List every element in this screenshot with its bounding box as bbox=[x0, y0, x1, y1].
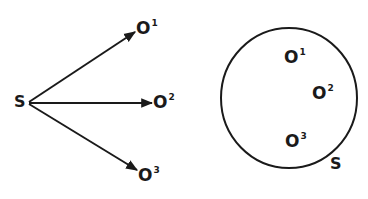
member-o1-sup: 1 bbox=[299, 47, 305, 57]
o2-base: O bbox=[153, 92, 167, 112]
left-target-o2: O2 bbox=[153, 94, 175, 111]
set-s-text: S bbox=[330, 154, 342, 173]
o1-sup: 1 bbox=[151, 18, 157, 28]
o3-base: O bbox=[138, 165, 152, 185]
o2-sup: 2 bbox=[168, 92, 174, 102]
left-target-o3: O3 bbox=[138, 167, 160, 184]
right-member-o2: O2 bbox=[312, 85, 334, 102]
left-target-o1: O1 bbox=[136, 20, 158, 37]
member-o3-sup: 3 bbox=[300, 131, 306, 141]
right-member-o1: O1 bbox=[284, 49, 306, 66]
arrow-s-to-o1 bbox=[29, 32, 135, 102]
left-source-label: S bbox=[14, 94, 26, 110]
right-member-o3: O3 bbox=[285, 133, 307, 150]
member-o3-base: O bbox=[285, 131, 299, 151]
member-o1-base: O bbox=[284, 47, 298, 67]
member-o2-sup: 2 bbox=[327, 83, 333, 93]
o3-sup: 3 bbox=[153, 165, 159, 175]
left-diagram-arrows bbox=[29, 32, 152, 170]
arrow-s-to-o3 bbox=[29, 104, 137, 170]
member-o2-base: O bbox=[312, 83, 326, 103]
right-set-label: S bbox=[330, 156, 342, 172]
source-s-text: S bbox=[14, 92, 26, 111]
o1-base: O bbox=[136, 18, 150, 38]
